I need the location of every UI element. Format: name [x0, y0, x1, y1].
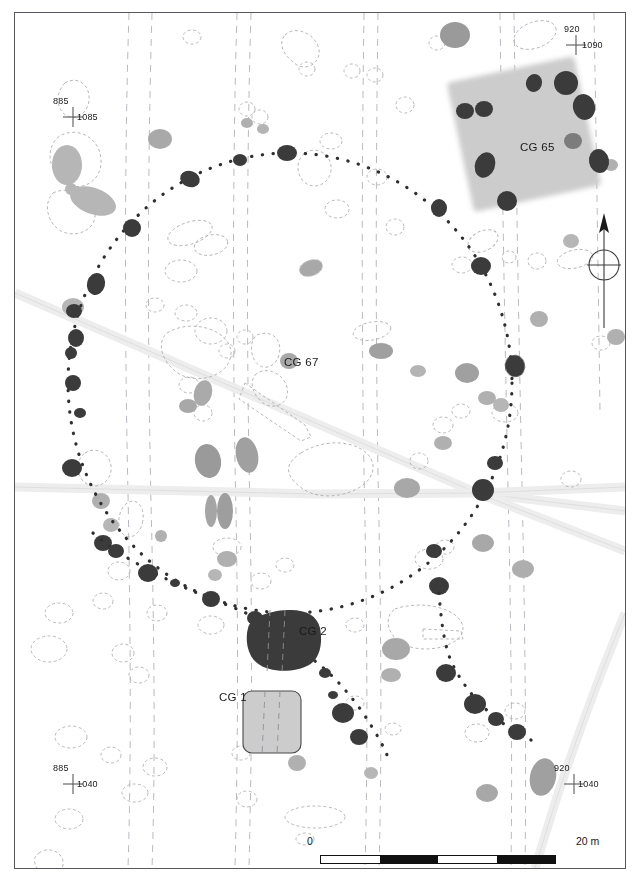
- site-plan-page: CG 65 CG 67 CG 2 CG 1 885 1085 920 1090 …: [0, 0, 640, 881]
- north-arrow: [587, 213, 621, 328]
- southeast-alignment-postholes: [319, 668, 368, 745]
- structure-cg2: [247, 610, 321, 671]
- structure-cg1: [243, 691, 301, 753]
- map-frame: CG 65 CG 67 CG 2 CG 1 885 1085 920 1090 …: [14, 12, 626, 869]
- scale-segment-1: [321, 856, 380, 863]
- southeast-lower-arc-postholes: [436, 664, 526, 740]
- map-canvas: [15, 13, 625, 868]
- scale-segment-3: [438, 856, 497, 863]
- structure-cg65: [447, 56, 602, 212]
- scale-segment-4: [497, 856, 556, 863]
- scale-segment-2: [380, 856, 439, 863]
- scale-bar: [320, 855, 556, 864]
